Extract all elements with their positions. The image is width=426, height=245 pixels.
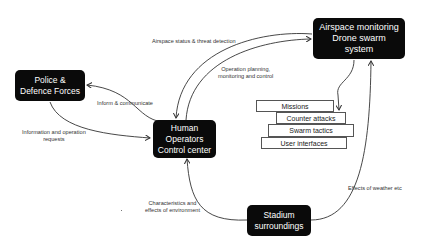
stack-item-missions: Missions xyxy=(256,100,334,112)
node-airspace-monitoring: Airspace monitoring Drone swarm system xyxy=(313,18,405,59)
node-police-line-2: Defence Forces xyxy=(20,86,80,97)
stack-item-user-interfaces: User interfaces xyxy=(261,137,347,149)
stack-item-label: Swarm tactics xyxy=(289,127,333,134)
label-weather-effects: Effects of weather etc xyxy=(348,185,402,192)
label-airspace-status: Airspace status & threat detection xyxy=(152,38,236,45)
node-stadium-line-2: surroundings xyxy=(254,221,303,232)
stack-item-counter-attacks: Counter attacks xyxy=(276,112,346,124)
label-characteristics-line-1: Characteristics and xyxy=(145,200,200,207)
node-police-defence: Police & Defence Forces xyxy=(15,70,85,101)
label-characteristics: Characteristics and effects of environme… xyxy=(145,200,200,214)
stack-item-label: User interfaces xyxy=(280,140,327,147)
node-police-line-1: Police & xyxy=(34,75,65,86)
stack-item-label: Missions xyxy=(281,103,308,110)
node-stadium-line-1: Stadium xyxy=(263,210,294,221)
label-operation-planning-line-2: monitoring and control xyxy=(218,73,273,80)
node-human-line-3: Control center xyxy=(158,145,211,156)
label-operation-planning-line-1: Operation planning, xyxy=(218,66,273,73)
stray-dot xyxy=(121,210,122,211)
label-info-requests-line-1: Information and operation xyxy=(22,129,86,136)
label-operation-planning: Operation planning, monitoring and contr… xyxy=(218,66,273,80)
node-airspace-line-3: system xyxy=(345,44,374,55)
label-info-requests-line-2: requests xyxy=(22,136,86,143)
edge-airspace-to-stack xyxy=(338,60,354,110)
node-human-line-1: Human xyxy=(171,123,198,134)
node-airspace-line-1: Airspace monitoring xyxy=(319,22,399,33)
node-human-operators: Human Operators Control center xyxy=(153,120,216,158)
node-human-line-2: Operators xyxy=(166,134,204,145)
stack-item-swarm-tactics: Swarm tactics xyxy=(268,124,354,137)
label-characteristics-line-2: effects of environment xyxy=(145,207,200,214)
label-inform-communicate: Inform & communicate xyxy=(97,100,153,107)
node-airspace-line-2: Drone swarm xyxy=(332,33,386,44)
label-info-requests: Information and operation requests xyxy=(22,129,86,143)
node-stadium-surroundings: Stadium surroundings xyxy=(247,205,311,236)
stack-item-label: Counter attacks xyxy=(286,115,335,122)
